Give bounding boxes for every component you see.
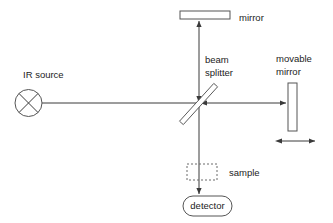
sample-label: sample — [229, 167, 260, 178]
detector-label: detector — [190, 200, 224, 211]
ftir-interferometer-diagram: IR source mirror beam splitter movable m… — [0, 0, 333, 223]
ir-source-label: IR source — [23, 69, 64, 80]
travel-arrow-head-left — [275, 138, 282, 143]
diagram-canvas: IR source mirror beam splitter movable m… — [0, 0, 333, 223]
fixed-mirror-label: mirror — [239, 12, 264, 23]
ir-source — [15, 90, 42, 117]
movable-mirror-travel-arrow — [275, 138, 315, 143]
movable-mirror-label-line1: movable — [276, 53, 312, 64]
movable-mirror-label-line2: mirror — [276, 66, 301, 77]
fixed-mirror — [180, 11, 230, 19]
beam-splitter-label-line1: beam — [205, 54, 229, 65]
sample-holder — [187, 164, 217, 180]
beam-splitter-label-line2: splitter — [205, 67, 233, 78]
movable-mirror — [288, 83, 297, 131]
